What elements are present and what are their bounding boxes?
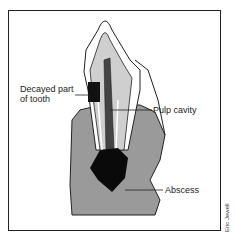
artist-credit: Eric Jewell <box>224 203 230 232</box>
label-pulp-cavity: Pulp cavity <box>153 105 197 115</box>
label-decayed-line1: Decayed part <box>20 84 74 94</box>
tooth-illustration <box>0 0 235 242</box>
label-abscess: Abscess <box>165 185 199 195</box>
label-decayed-tooth: Decayed part of tooth <box>20 84 74 104</box>
label-decayed-line2: of tooth <box>20 94 74 104</box>
decayed-region <box>88 82 100 102</box>
